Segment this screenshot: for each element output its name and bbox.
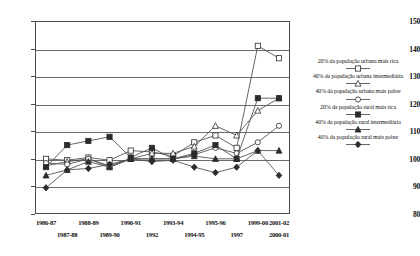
data-point-filled-diamond (85, 165, 91, 171)
x-axis-tick-label: 1990-91 (121, 219, 141, 226)
data-point-open-triangle (255, 108, 261, 114)
legend-item[interactable]: 20% da população rural mais rica (296, 104, 420, 119)
series-2 (43, 123, 281, 170)
series-0 (43, 43, 281, 163)
legend-item[interactable]: 40% da população rural intermediária (296, 119, 420, 134)
data-point-filled-square (213, 142, 218, 147)
data-point-filled-square (86, 138, 91, 143)
data-point-filled-square (107, 134, 112, 139)
y-axis-tick-label: 80 (390, 210, 420, 219)
legend-key-filled-square (343, 110, 373, 119)
legend-key-open-circle (343, 95, 373, 104)
data-point-open-square (255, 43, 260, 48)
x-axis-tick-label: 1999-00 (248, 219, 268, 226)
x-axis-tick-label: 1987-88 (57, 231, 77, 238)
data-point-filled-square (255, 96, 260, 101)
data-point-open-square (128, 148, 133, 153)
x-axis-tick-label: 2000-01 (269, 231, 289, 238)
y-axis-tick-mark (31, 214, 35, 215)
legend-item[interactable]: 40% da população urbana intermediária (296, 73, 420, 88)
data-point-open-square (234, 145, 239, 150)
data-point-open-square (276, 56, 281, 61)
legend-item[interactable]: 20% da população urbana mais rica (296, 58, 420, 73)
data-point-filled-diamond (234, 164, 240, 170)
x-axis-tick-label: 1995-96 (205, 219, 225, 226)
y-axis-tick-label: 90 (390, 182, 420, 191)
legend-item[interactable]: 40% da população rural mais pobre (296, 134, 420, 149)
data-point-filled-square (43, 165, 48, 170)
data-point-filled-diamond (191, 164, 197, 170)
data-point-filled-diamond (213, 169, 219, 175)
x-axis-tick-label: 1989-90 (99, 231, 119, 238)
x-axis-tick-label: 1994-95 (184, 231, 204, 238)
chart-legend: 20% da população urbana mais rica40% da … (296, 58, 420, 149)
series-line (46, 46, 279, 160)
data-point-open-square (213, 133, 218, 138)
legend-key-filled-diamond (343, 140, 373, 149)
x-axis-tick-label: 1997 (231, 231, 243, 238)
y-axis-tick-label: 140 (390, 44, 420, 53)
y-axis-tick-label: 100 (390, 154, 420, 163)
series-4 (43, 147, 282, 178)
x-axis-tick-label: 1986-87 (36, 219, 56, 226)
x-axis-tick-label: 1993-94 (163, 219, 183, 226)
data-point-filled-square (149, 145, 154, 150)
x-axis-tick-label: 1992 (146, 231, 158, 238)
series-line (46, 98, 279, 167)
data-point-open-circle (355, 96, 360, 101)
x-axis-tick-label: 2001-02 (269, 219, 289, 226)
y-axis-tick-label: 150 (390, 17, 420, 26)
data-point-filled-diamond (355, 141, 361, 147)
data-point-open-triangle (212, 123, 218, 129)
legend-key-filled-triangle (343, 125, 373, 134)
data-point-open-square (355, 66, 360, 71)
legend-key-open-square (343, 64, 373, 73)
legend-item[interactable]: 40% da população urbana mais pobre (296, 88, 420, 103)
series-layer (35, 21, 290, 214)
data-point-filled-square (355, 112, 360, 117)
line-chart: 1501401301201101009080 1986-871988-89199… (0, 0, 420, 256)
data-point-filled-square (276, 96, 281, 101)
data-point-open-circle (255, 140, 260, 145)
legend-key-open-triangle (343, 79, 373, 88)
x-axis-tick-label: 1988-89 (78, 219, 98, 226)
data-point-open-circle (276, 123, 281, 128)
data-point-filled-square (65, 142, 70, 147)
